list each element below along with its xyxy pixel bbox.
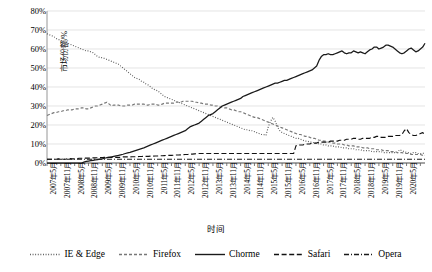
- y-axis-tick-label: 30%: [12, 102, 46, 111]
- x-axis-tick-label: 2018年11月: [368, 162, 376, 222]
- y-axis-tick-label: 20%: [12, 121, 46, 130]
- x-axis-tick-label: 2012年5月: [188, 162, 196, 222]
- x-axis-tick-label: 2008年11月: [91, 162, 99, 222]
- x-axis-tick-label: 2009年5月: [105, 162, 113, 222]
- y-axis-tick-label: 10%: [12, 140, 46, 149]
- y-axis-tick-label: 70%: [12, 26, 46, 35]
- y-axis-tick-label: 60%: [12, 45, 46, 54]
- legend-label: IE & Edge: [64, 249, 105, 259]
- x-axis-tick-label: 2019年11月: [396, 162, 404, 222]
- series-line-chorme: [47, 43, 425, 163]
- legend-item[interactable]: Safari: [274, 249, 331, 259]
- legend-label: Opera: [378, 249, 401, 259]
- x-axis-tick-label: 2016年11月: [313, 162, 321, 222]
- y-axis-tick-label: 80%: [12, 7, 46, 16]
- legend-label: Chorme: [229, 249, 260, 259]
- x-axis-tick-label: 2012年11月: [202, 162, 210, 222]
- x-axis-tick-label: 2011年11月: [174, 162, 182, 222]
- x-axis-tick-label: 2010年5月: [133, 162, 141, 222]
- x-axis-tick-label: 2020年5月: [410, 162, 418, 222]
- x-axis-tick-label: 2014年11月: [257, 162, 265, 222]
- legend-swatch: [195, 250, 225, 259]
- legend-swatch: [119, 250, 149, 259]
- x-axis-tick-label: 2009年11月: [119, 162, 127, 222]
- x-axis-tick-label: 2017年11月: [340, 162, 348, 222]
- x-axis-tick-label: 2014年5月: [244, 162, 252, 222]
- y-axis-tick-label: 40%: [12, 83, 46, 92]
- legend-item[interactable]: Opera: [344, 249, 401, 259]
- x-axis-tick-label: 2019年5月: [382, 162, 390, 222]
- x-axis-title: 时间: [0, 222, 432, 234]
- chart-figure: 市场份额/% 0%10%20%30%40%50%60%70%80% 2007年5…: [0, 0, 432, 272]
- y-axis-tick-label: 50%: [12, 64, 46, 73]
- x-axis-tick-label: 2015年5月: [271, 162, 279, 222]
- y-axis-tick-labels: 0%10%20%30%40%50%60%70%80%: [0, 0, 46, 200]
- legend-swatch: [30, 250, 60, 259]
- legend-label: Safari: [308, 249, 331, 259]
- x-axis-tick-label: 2018年5月: [354, 162, 362, 222]
- legend-swatch: [344, 250, 374, 259]
- legend-label: Firefox: [153, 249, 181, 259]
- x-axis-tick-label: 2010年11月: [147, 162, 155, 222]
- x-axis-tick-label: 2015年11月: [285, 162, 293, 222]
- x-axis-tick-label: 2013年5月: [216, 162, 224, 222]
- x-axis-tick-label: 2007年11月: [64, 162, 72, 222]
- legend-item[interactable]: Firefox: [119, 249, 181, 259]
- y-axis-tick-label: 0%: [12, 159, 46, 168]
- x-axis-tick-label: 2016年5月: [299, 162, 307, 222]
- x-axis-tick-label: 2008年5月: [78, 162, 86, 222]
- x-axis-tick-label: 2017年5月: [327, 162, 335, 222]
- chart-legend: IE & EdgeFirefoxChormeSafariOpera: [0, 243, 432, 265]
- legend-item[interactable]: Chorme: [195, 249, 260, 259]
- x-axis-tick-label: 2011年5月: [161, 162, 169, 222]
- series-line-firefox: [47, 101, 425, 155]
- plot-area: [47, 11, 425, 163]
- x-axis-tick-label: 2013年11月: [230, 162, 238, 222]
- legend-item[interactable]: IE & Edge: [30, 249, 105, 259]
- legend-swatch: [274, 250, 304, 259]
- x-axis-tick-label: 2007年5月: [50, 162, 58, 222]
